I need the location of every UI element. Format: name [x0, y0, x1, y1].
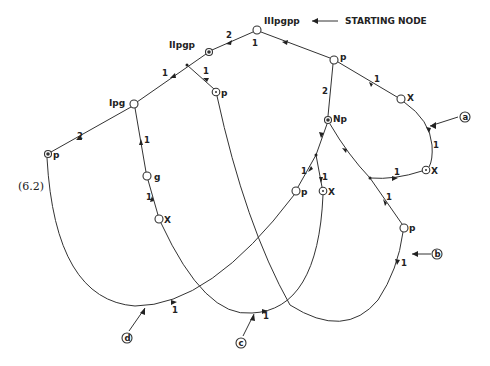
edge-weight: 1 [386, 192, 392, 202]
node-center-dot-icon [207, 50, 211, 54]
edge-weight: 1 [263, 311, 269, 321]
node-center-dot-icon [425, 169, 427, 171]
edge-weight: 1 [144, 135, 150, 145]
entry-label-a: a [463, 112, 469, 122]
state-graph-diagram: a b c d IIIpgpp IIpgp Ipg p g X p p X Np… [0, 0, 490, 366]
node-label-p: p [221, 88, 228, 98]
arrowhead-icon [250, 314, 255, 321]
node-label-p: p [409, 223, 416, 233]
junction-dot-icon [315, 154, 318, 157]
edge-iipgp-to-p [187, 65, 214, 89]
node-open-icon [253, 26, 261, 34]
node-label-root: IIIpgpp [264, 16, 300, 26]
node-open-icon [330, 56, 338, 64]
edge-weight: 1 [322, 172, 328, 182]
node-label-p: p [53, 150, 60, 160]
edge-weight: 1 [401, 258, 407, 268]
node-label-np: Np [333, 114, 348, 124]
node-center-dot-icon [46, 152, 50, 156]
edge-x-loop-right [404, 102, 432, 167]
edge-p-to-np [328, 64, 333, 116]
equation-number: (6.2) [18, 180, 44, 193]
node-label-g: g [154, 172, 160, 182]
edge-weight: 2 [77, 131, 83, 141]
node-label-x: X [164, 215, 171, 225]
arrowhead-icon [226, 40, 232, 45]
node-label-p: p [301, 187, 308, 197]
node-label-p: p [340, 52, 347, 62]
junction-dot-icon [186, 64, 189, 67]
edge-p-curve-b [217, 96, 403, 321]
node-open-icon [397, 95, 405, 103]
edge-weight: 1 [433, 140, 439, 150]
arrowhead-icon [426, 127, 431, 133]
node-open-icon [130, 100, 138, 108]
junction-dot-icon [369, 177, 372, 180]
node-label-x: X [407, 93, 414, 103]
edge-np-to-right-junction [330, 124, 370, 178]
entry-label-b: b [435, 249, 441, 259]
edge-weight: 2 [322, 86, 328, 96]
edge-weight: 1 [146, 192, 152, 202]
edge-weight: 1 [162, 68, 168, 78]
arrowhead-icon [170, 73, 176, 78]
edge-weights: 1 2 1 1 2 1 1 1 2 1 1 1 1 1 1 1 1 [77, 30, 439, 321]
node-center-dot-icon [322, 190, 324, 192]
node-open-icon [155, 215, 163, 223]
node-open-icon [292, 187, 300, 195]
node-open-icon [143, 172, 151, 180]
edge-p-curve-d [47, 158, 294, 306]
graph-nodes [45, 26, 430, 232]
edge-weight: 2 [226, 30, 232, 40]
starting-node-label: STARTING NODE [345, 16, 427, 26]
node-open-icon [400, 224, 408, 232]
edge-p-to-root [261, 32, 330, 58]
node-center-dot-icon [215, 91, 217, 93]
entry-label-c: c [239, 338, 244, 348]
entry-label-d: d [125, 333, 131, 343]
edge-weight: 1 [394, 167, 400, 177]
node-label-x: X [328, 187, 335, 197]
arrowhead-icon [139, 139, 143, 145]
edge-weight: 1 [301, 166, 307, 176]
edge-weight: 1 [172, 305, 178, 315]
edge-weight: 1 [374, 74, 380, 84]
node-center-dot-icon [326, 118, 330, 122]
arrowheads [76, 18, 436, 321]
node-label-iipgp: IIpgp [169, 40, 196, 50]
node-label-x: X [431, 166, 438, 176]
edge-root-to-iipgp [212, 32, 253, 50]
edge-np-to-junction [316, 124, 327, 155]
arrowhead-icon [430, 122, 436, 129]
node-label-ipg: Ipg [109, 98, 125, 108]
edge-x-to-p [338, 62, 397, 97]
edge-ipg-to-p [51, 107, 131, 152]
edge-weight: 1 [252, 38, 258, 48]
arrowhead-icon [312, 18, 318, 24]
edge-weight: 1 [203, 66, 209, 76]
arrowhead-icon [412, 251, 418, 257]
